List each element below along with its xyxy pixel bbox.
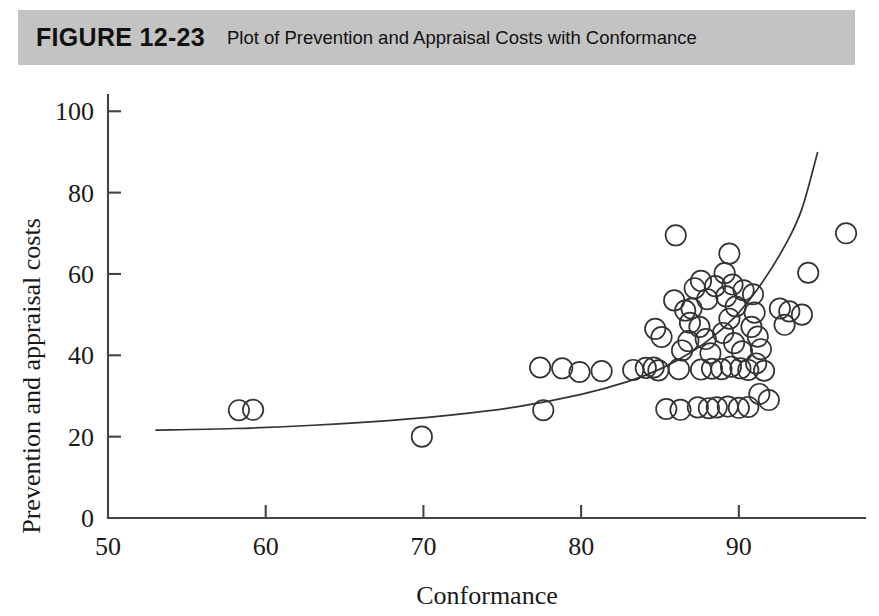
y-tick-label: 100 — [55, 97, 94, 126]
data-point — [530, 357, 550, 377]
y-axis-title: Prevention and appraisal costs — [17, 218, 46, 534]
y-tick-label: 80 — [68, 179, 94, 208]
data-point-group — [229, 223, 857, 447]
figure-caption-text: Plot of Prevention and Appraisal Costs w… — [227, 27, 697, 49]
x-tick-label: 60 — [253, 532, 279, 561]
data-point — [718, 396, 738, 416]
data-point — [591, 361, 611, 381]
x-axis-title: Conformance — [416, 581, 558, 610]
x-axis-ticks — [266, 505, 739, 518]
figure-caption-bar: FIGURE 12-23 Plot of Prevention and Appr… — [18, 10, 855, 65]
data-point — [836, 223, 856, 243]
data-point — [691, 359, 711, 379]
data-point — [798, 263, 818, 283]
data-point — [412, 426, 432, 446]
x-tick-label: 80 — [568, 532, 594, 561]
y-tick-label: 40 — [68, 341, 94, 370]
y-tick-label: 20 — [68, 423, 94, 452]
x-axis-tick-labels: 5060708090 — [95, 532, 752, 561]
y-axis-ticks — [108, 111, 121, 518]
data-point — [792, 304, 812, 324]
y-tick-label: 60 — [68, 260, 94, 289]
data-point — [243, 400, 263, 420]
data-point — [744, 302, 764, 322]
data-point — [681, 298, 701, 318]
data-point — [751, 339, 771, 359]
data-point — [669, 359, 689, 379]
x-tick-label: 70 — [410, 532, 436, 561]
data-point — [666, 225, 686, 245]
x-tick-label: 90 — [726, 532, 752, 561]
figure-number-label: FIGURE 12-23 — [36, 23, 205, 52]
data-point — [714, 263, 734, 283]
data-point — [719, 243, 739, 263]
x-tick-label: 50 — [95, 532, 121, 561]
y-axis-tick-labels: 020406080100 — [55, 97, 94, 533]
scatter-plot: Prevention and appraisal costs 020406080… — [0, 66, 879, 616]
figure-root: FIGURE 12-23 Plot of Prevention and Appr… — [0, 0, 879, 616]
y-tick-label: 0 — [81, 504, 94, 533]
plot-svg: Prevention and appraisal costs 020406080… — [0, 66, 879, 616]
